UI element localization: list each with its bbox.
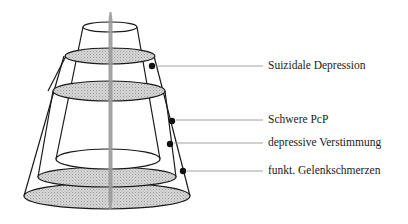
dot-suicidal	[149, 63, 155, 69]
middle-ellipse	[38, 167, 176, 187]
dot-pcp	[169, 118, 175, 124]
cone-diagram	[0, 0, 408, 224]
central-pole	[109, 12, 113, 210]
label-depressive-mood: depressive Verstimmung	[268, 137, 381, 149]
inner-ellipse	[56, 149, 160, 169]
diagram-canvas: Suizidale Depression Schwere PcP depress…	[0, 0, 408, 224]
dot-joint-pain	[180, 168, 186, 174]
label-severe-pcp: Schwere PcP	[268, 114, 328, 126]
label-suicidal-depression: Suizidale Depression	[268, 60, 365, 72]
dot-depressive	[167, 141, 173, 147]
label-joint-pain: funkt. Gelenkschmerzen	[268, 165, 380, 177]
